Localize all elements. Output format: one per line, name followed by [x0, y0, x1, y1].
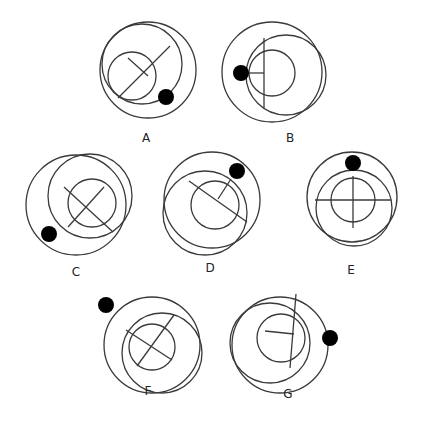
figure-a: A: [100, 22, 196, 145]
inner-circle: [257, 314, 305, 362]
black-dot-icon: [345, 155, 361, 171]
figure-label: F: [145, 384, 152, 398]
black-dot-icon: [233, 65, 249, 81]
figure-label: D: [205, 261, 214, 275]
black-dot-icon: [229, 163, 245, 179]
figure-e: E: [307, 152, 397, 277]
black-dot-icon: [158, 89, 174, 105]
line-1: [126, 330, 172, 360]
line-2: [68, 187, 104, 227]
figure-d: D: [163, 152, 260, 275]
middle-circle: [316, 170, 392, 246]
puzzle-canvas: ABCDEFG: [0, 0, 425, 425]
line-2: [128, 58, 148, 76]
line-1: [265, 331, 294, 334]
middle-circle: [246, 35, 326, 115]
line-1: [64, 187, 113, 232]
figure-label: G: [283, 387, 292, 401]
black-dot-icon: [98, 297, 114, 313]
figure-label: E: [347, 263, 355, 277]
figure-g: G: [230, 294, 338, 401]
figure-label: C: [72, 265, 80, 279]
figure-label: A: [142, 131, 151, 145]
black-dot-icon: [322, 330, 338, 346]
figure-f: F: [98, 297, 202, 398]
inner-circle: [108, 52, 156, 100]
outer-circle: [26, 155, 126, 255]
black-dot-icon: [41, 226, 57, 242]
figure-c: C: [26, 154, 132, 279]
figure-b: B: [222, 22, 326, 145]
figure-label: B: [286, 131, 294, 145]
middle-circle: [230, 303, 310, 383]
middle-circle: [48, 154, 132, 238]
